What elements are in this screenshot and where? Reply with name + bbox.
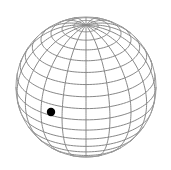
grid-line [38,138,86,152]
point-marker [47,108,55,116]
grid-line [86,36,140,73]
grid-line [17,73,86,109]
grid-line [86,25,110,156]
grid-line [62,25,86,156]
globe-figure [0,0,171,170]
grid-line [86,138,134,152]
grid-line [86,47,147,84]
grid-line [32,36,86,73]
grid-line [86,25,155,113]
grid-line [25,47,86,84]
wireframe-globe-svg [0,0,171,170]
grid-line [17,25,86,113]
grid-line [41,26,86,60]
grid-line [86,73,155,109]
grid-line [86,26,131,60]
